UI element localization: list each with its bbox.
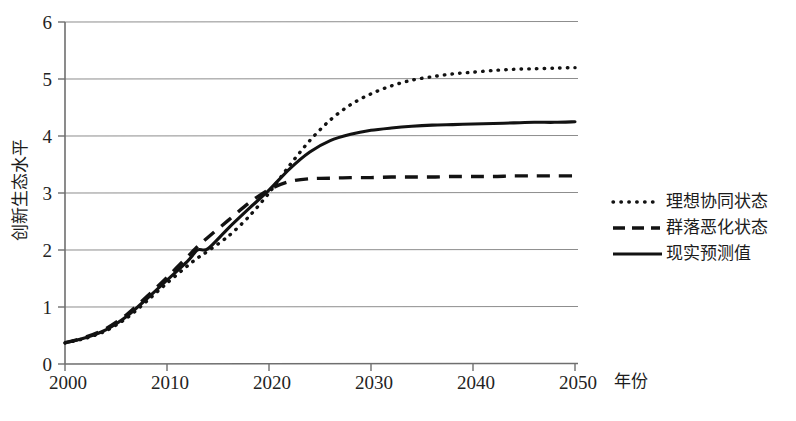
y-axis-title: 创新生态水平 (11, 139, 30, 241)
legend: 理想协同状态 群落恶化状态 现实预测值 (613, 192, 768, 263)
legend-label-ideal-synergy: 理想协同状态 (666, 192, 768, 211)
x-tick-label-2020: 2020 (253, 372, 291, 393)
x-axis-line (65, 364, 578, 365)
y-tick-label-4: 4 (43, 126, 53, 147)
gridline-5 (65, 79, 578, 80)
series-group (65, 68, 575, 343)
y-axis-tick-labels: 0 1 2 3 4 5 6 (43, 12, 53, 375)
gridline-2 (65, 250, 578, 251)
x-tick-label-2050: 2050 (559, 372, 597, 393)
gridline-6 (65, 22, 578, 23)
series-line-community-deterioration (65, 176, 575, 343)
y-tick-label-3: 3 (43, 183, 53, 204)
x-tick-label-2030: 2030 (355, 372, 393, 393)
x-tick-label-2040: 2040 (457, 372, 495, 393)
legend-label-community-deterioration: 群落恶化状态 (666, 218, 768, 237)
gridline-4 (65, 136, 578, 137)
series-line-realistic-forecast (65, 122, 575, 343)
x-tick-label-2000: 2000 (49, 372, 87, 393)
y-tick-label-1: 1 (43, 297, 53, 318)
x-tick-label-2010: 2010 (151, 372, 189, 393)
chart-container: 0 1 2 3 4 5 6 2000 2010 2020 2030 2040 2… (0, 0, 796, 421)
y-tick-label-2: 2 (43, 240, 53, 261)
x-axis-tick-labels: 2000 2010 2020 2030 2040 2050 (49, 372, 597, 393)
y-tick-label-5: 5 (43, 69, 53, 90)
x-axis-tickmarks (65, 364, 575, 371)
legend-label-realistic-forecast: 现实预测值 (666, 244, 751, 263)
gridlines (65, 22, 578, 308)
y-tick-label-6: 6 (43, 12, 53, 33)
x-axis-title: 年份 (614, 372, 648, 391)
line-chart: 0 1 2 3 4 5 6 2000 2010 2020 2030 2040 2… (0, 0, 796, 421)
gridline-3 (65, 193, 578, 194)
y-axis-tickmarks (58, 22, 65, 364)
